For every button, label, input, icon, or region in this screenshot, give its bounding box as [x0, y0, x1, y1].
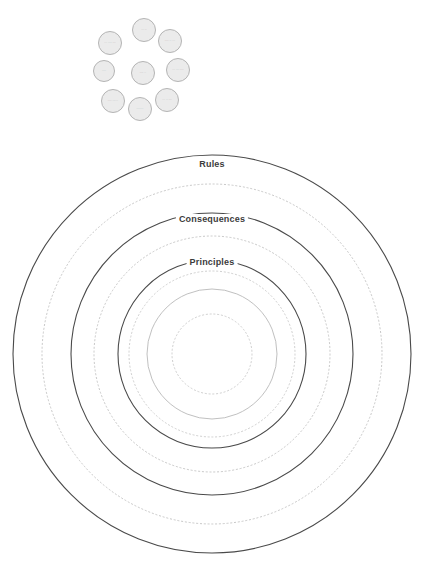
bubble-bottom[interactable]: ▫▫▫▫▫▫▫ — [128, 97, 152, 121]
bubble-top-right-label: ▫▫▫▫ ▫▫ ▫▫▫ — [164, 39, 176, 42]
bubble-center[interactable]: ▫▫▫▫ ▫▫ — [131, 61, 155, 85]
bubble-right[interactable]: ▫▫▫ ▫▫▫ ▫▫▫▫ — [166, 58, 190, 82]
bubble-right-label: ▫▫▫ ▫▫▫ ▫▫▫▫ — [171, 68, 184, 71]
bubble-top[interactable]: ▫▫▫ ▫▫ — [132, 18, 156, 42]
bubble-top-right[interactable]: ▫▫▫▫ ▫▫ ▫▫▫ — [158, 29, 182, 53]
bubble-left[interactable]: ▫▫▫▫ — [93, 60, 115, 82]
bubble-cluster: ▫▫▫ ▫▫▫▫▫▫ ▫▫ ▫▫▫▫▫▫ ▫▫▫▫ ▫▫▫▫▫▫ ▫▫▫ ▫▫▫… — [0, 0, 424, 140]
bubble-top-left[interactable]: ▫▫▫ ▫▫▫▫ ▫▫▫ — [98, 31, 122, 55]
ring-label-consequences: Consequences — [176, 214, 248, 224]
bubble-left-label: ▫▫▫▫ — [101, 69, 107, 72]
ring-label-rules: Rules — [196, 159, 227, 169]
bubble-bottom-left[interactable]: ▫▫▫▫ ▫▫▫▫▫▫ — [101, 89, 125, 113]
bubble-bottom-left-label: ▫▫▫▫ ▫▫▫▫▫▫ — [107, 99, 120, 102]
bubble-top-left-label: ▫▫▫ ▫▫▫▫ ▫▫▫ — [103, 41, 116, 44]
bubble-center-label: ▫▫▫▫ ▫▫ — [139, 71, 148, 74]
bubble-top-label: ▫▫▫ ▫▫ — [140, 28, 148, 31]
bubble-bottom-right-label: ▫▫▫ ▫▫ ▫▫▫ — [161, 98, 172, 101]
bubble-bottom-label: ▫▫▫▫▫▫▫ — [136, 107, 145, 110]
ring-label-principles: Principles — [187, 257, 238, 267]
bubble-bottom-right[interactable]: ▫▫▫ ▫▫ ▫▫▫ — [155, 88, 179, 112]
